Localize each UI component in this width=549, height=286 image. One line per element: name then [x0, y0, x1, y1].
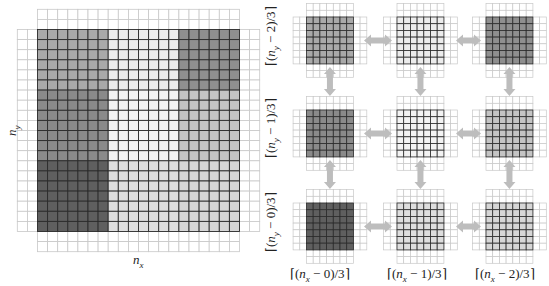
col-label-1: ⌈(nx − 1)/3⌉: [387, 266, 447, 284]
y-axis-label: ny: [4, 126, 22, 137]
block-r2-c2-halo-right: [533, 203, 546, 250]
block-r1-c2: [486, 110, 533, 157]
block-r1-c1-halo-top: [397, 97, 444, 110]
block-r2-c1-halo-bottom: [397, 250, 444, 263]
col-label-0: ⌈(nx − 0)/3⌉: [290, 266, 350, 284]
block-r2-c1: [397, 203, 444, 250]
block-r1-c1-halo-right: [444, 110, 457, 157]
row-label-2: ⌈(ny − 0)/3⌉: [263, 192, 281, 252]
block-r2-c0: [307, 203, 354, 250]
block-r0-c2-halo-right: [533, 17, 546, 64]
block-r2-c0-halo-top: [307, 190, 354, 203]
block-r0-c2: [486, 17, 533, 64]
col-label-2: ⌈(nx − 2)/3⌉: [475, 266, 535, 284]
block-r2-c0-halo-left: [293, 203, 306, 250]
block-r0-c0-halo-top: [307, 4, 354, 17]
block-r1-c0-halo-top: [307, 97, 354, 110]
x-axis-label: nx: [133, 252, 144, 270]
block-r2-c2-halo-top: [486, 190, 533, 203]
block-r2-c2: [486, 203, 533, 250]
block-r2-c1-halo-right: [444, 203, 457, 250]
block-r2-c0-halo-bottom: [307, 250, 354, 263]
block-r0-c2-halo-top: [486, 4, 533, 17]
block-r2-c1-halo-top: [397, 190, 444, 203]
block-r0-c0: [307, 17, 354, 64]
block-r0-c0-halo-left: [293, 17, 306, 64]
block-r0-c1-halo-right: [444, 17, 457, 64]
row-label-0: ⌈(ny − 2)/3⌉: [263, 6, 281, 66]
block-r1-c0-halo-left: [293, 110, 306, 157]
block-r0-c1-halo-top: [397, 4, 444, 17]
block-r1-c1: [397, 110, 444, 157]
block-r1-c0: [307, 110, 354, 157]
block-r2-c2-halo-bottom: [486, 250, 533, 263]
block-r0-c1: [397, 17, 444, 64]
block-r1-c2-halo-top: [486, 97, 533, 110]
diagram-canvas: nx ny ⌈(ny − 2)/3⌉ ⌈(ny − 1)/3⌉ ⌈(ny − 0…: [0, 0, 549, 286]
block-r1-c2-halo-right: [533, 110, 546, 157]
row-label-1: ⌈(ny − 1)/3⌉: [263, 98, 281, 158]
